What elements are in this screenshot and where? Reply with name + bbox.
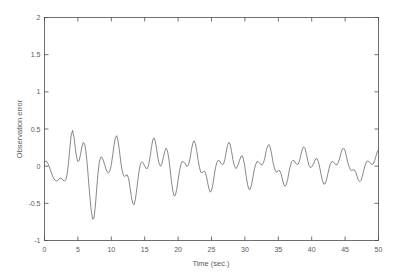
y-tick-label: 2: [37, 14, 41, 21]
x-tick-label: 40: [308, 246, 316, 253]
x-tick-label: 45: [341, 246, 349, 253]
plot-frame: [45, 18, 379, 241]
observation-error-series: [45, 130, 379, 218]
y-tick-label: 0.5: [31, 126, 41, 133]
x-tick-label: 20: [174, 246, 182, 253]
x-tick-label: 35: [274, 246, 282, 253]
y-axis-title: Observation error: [15, 99, 24, 158]
y-axis-ticks: [45, 18, 379, 241]
observation-error-chart: 05101520253035404550 -1-0.500.511.52 Tim…: [0, 0, 396, 274]
x-axis-ticks: [45, 18, 379, 241]
y-tick-label: 1: [37, 88, 41, 95]
y-tick-label: 1.5: [31, 51, 41, 58]
x-axis-tick-labels: 05101520253035404550: [43, 246, 383, 253]
x-tick-label: 0: [43, 246, 47, 253]
x-tick-label: 10: [107, 246, 115, 253]
y-axis-tick-labels: -1-0.500.511.52: [28, 14, 40, 244]
y-tick-label: -0.5: [28, 200, 40, 207]
y-tick-label: 0: [37, 163, 41, 170]
figure-container: 05101520253035404550 -1-0.500.511.52 Tim…: [0, 0, 396, 274]
x-tick-label: 5: [76, 246, 80, 253]
x-tick-label: 15: [141, 246, 149, 253]
x-tick-label: 50: [375, 246, 383, 253]
y-tick-label: -1: [34, 237, 40, 244]
x-tick-label: 30: [241, 246, 249, 253]
x-axis-title: Time (sec.): [192, 259, 230, 268]
x-tick-label: 25: [208, 246, 216, 253]
